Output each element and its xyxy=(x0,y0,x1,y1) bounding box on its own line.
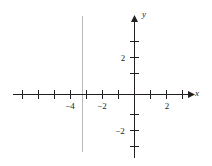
x-axis-label: x xyxy=(194,88,199,98)
text-layer: x y −4 −2 2 2 −2 xyxy=(0,0,212,166)
x-tick-label-neg4: −4 xyxy=(65,101,75,111)
x-tick-label-neg2: −2 xyxy=(97,101,107,111)
y-tick-label-neg2: −2 xyxy=(115,126,125,136)
x-tick-label-pos2: 2 xyxy=(165,101,170,111)
y-tick-label-pos2: 2 xyxy=(121,53,126,63)
coordinate-plane-figure: x y −4 −2 2 2 −2 xyxy=(0,0,212,166)
y-axis-label: y xyxy=(141,9,146,19)
